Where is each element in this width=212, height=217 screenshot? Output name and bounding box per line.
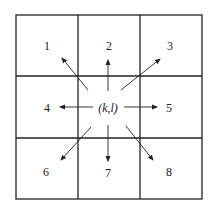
neighbor-label-2: 2 (106, 40, 112, 52)
arrow-to-neighbor-6 (61, 127, 91, 160)
neighbor-label-7: 7 (105, 167, 111, 179)
neighbor-label-6: 6 (43, 166, 49, 178)
neighbor-label-3: 3 (167, 40, 173, 52)
neighbor-label-1: 1 (44, 40, 50, 52)
neighbor-label-5: 5 (166, 102, 172, 114)
neighbor-label-4: 4 (44, 102, 50, 114)
arrow-to-neighbor-1 (62, 58, 88, 90)
neighbor-label-8: 8 (166, 166, 172, 178)
center-label: (k,l) (98, 102, 118, 114)
